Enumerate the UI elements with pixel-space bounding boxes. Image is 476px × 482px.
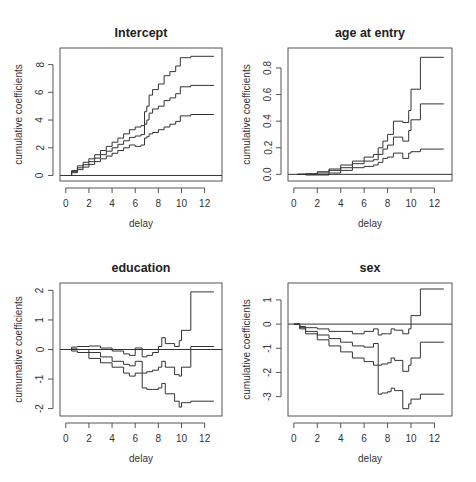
x-tick-label: 12 [199, 433, 211, 444]
y-tick-label: -2 [35, 404, 46, 413]
series-lower-line [294, 324, 444, 409]
series-lower-line [297, 149, 443, 175]
x-tick-label: 2 [315, 433, 321, 444]
y-axis: 02468cumulative coefficients [13, 61, 53, 178]
series-upper-line [66, 56, 214, 175]
y-tick-label: 6 [35, 89, 46, 95]
panel-intercept: Intercept 024681012delay02468cumulative … [13, 26, 222, 229]
panel-age-at-entry: age at entry 024681012delay0.00.20.40.60… [241, 26, 452, 229]
x-tick-label: 0 [291, 433, 297, 444]
panel-sex: sex 024681012delay-3-2-101cumulative coe… [241, 261, 452, 464]
y-tick-label: 1 [35, 317, 46, 323]
y-tick-label: 8 [35, 61, 46, 67]
panel-title: sex [360, 261, 381, 275]
y-tick-label: 4 [35, 117, 46, 123]
x-tick-label: 12 [429, 198, 441, 209]
x-tick-label: 2 [86, 198, 92, 209]
y-tick-label: 0.0 [263, 167, 274, 181]
x-tick-label: 10 [405, 433, 417, 444]
x-tick-label: 10 [176, 198, 188, 209]
x-tick-label: 2 [86, 433, 92, 444]
x-tick-label: 6 [132, 433, 138, 444]
x-tick-label: 4 [109, 198, 115, 209]
series-upper-line [297, 57, 443, 174]
x-tick-label: 4 [338, 198, 344, 209]
series-estimate-line [66, 347, 214, 377]
x-tick-label: 8 [385, 433, 391, 444]
x-axis: 024681012delay [63, 188, 211, 229]
x-tick-label: 6 [361, 433, 367, 444]
x-tick-label: 0 [63, 433, 69, 444]
series-lower-line [66, 115, 214, 176]
x-axis: 024681012delay [63, 423, 211, 464]
x-tick-label: 0 [291, 198, 297, 209]
panel-title: education [111, 261, 170, 275]
panel-education: education 024681012delay-2-1012cumumativ… [13, 261, 222, 464]
y-axis-label: cumulative coefficients [241, 299, 252, 399]
x-tick-label: 6 [361, 198, 367, 209]
y-tick-label: 0 [35, 346, 46, 352]
x-tick-label: 10 [176, 433, 188, 444]
x-axis-label: delay [129, 218, 153, 229]
y-tick-label: -2 [263, 368, 274, 377]
x-axis-label: delay [129, 453, 153, 464]
y-tick-label: 0.4 [263, 114, 274, 128]
series-upper-line [66, 292, 214, 357]
x-tick-label: 8 [385, 198, 391, 209]
x-tick-label: 12 [199, 198, 211, 209]
x-tick-label: 6 [132, 198, 138, 209]
y-tick-label: -1 [35, 374, 46, 383]
figure: Intercept 024681012delay02468cumulative … [0, 0, 476, 482]
y-tick-label: 0.8 [263, 61, 274, 75]
y-tick-label: 1 [263, 297, 274, 303]
y-tick-label: 2 [35, 287, 46, 293]
x-axis-label: delay [358, 218, 382, 229]
series-upper-line [294, 289, 444, 335]
x-tick-label: 4 [109, 433, 115, 444]
x-tick-label: 8 [156, 433, 162, 444]
x-axis-label: delay [358, 453, 382, 464]
panel-title: Intercept [115, 26, 169, 40]
y-tick-label: -1 [263, 343, 274, 352]
y-axis-label: cumulative coefficients [241, 64, 252, 164]
y-axis-label: cumulative coefficients [13, 64, 24, 164]
x-tick-label: 2 [315, 198, 321, 209]
plot-box [288, 283, 452, 416]
x-tick-label: 10 [405, 198, 417, 209]
y-tick-label: -3 [263, 392, 274, 401]
y-axis: -2-1012cumumative coefficients [13, 287, 53, 413]
y-axis: 0.00.20.40.60.8cumulative coefficients [241, 61, 281, 182]
y-axis: -3-2-101cumulative coefficients [241, 297, 281, 401]
y-tick-label: 0.2 [263, 140, 274, 154]
x-axis: 024681012delay [291, 423, 440, 464]
panel-title: age at entry [335, 26, 405, 40]
x-tick-label: 8 [156, 198, 162, 209]
y-axis-label: cumumative coefficients [13, 296, 24, 403]
y-tick-label: 0 [35, 172, 46, 178]
x-tick-label: 4 [338, 433, 344, 444]
series-lower-line [66, 350, 214, 408]
y-tick-label: 0 [263, 321, 274, 327]
x-axis: 024681012delay [291, 188, 440, 229]
series-estimate-line [297, 104, 443, 174]
x-tick-label: 12 [429, 433, 441, 444]
y-tick-label: 2 [35, 145, 46, 151]
y-tick-label: 0.6 [263, 87, 274, 101]
x-tick-label: 0 [63, 198, 69, 209]
